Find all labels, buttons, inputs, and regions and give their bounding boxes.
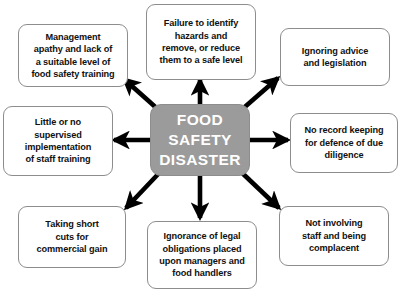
cause-node-bottom-right-label: Not involving staff and being complacent [302,217,366,254]
cause-node-bottom-left[interactable]: Taking short cuts for commercial gain [18,206,126,268]
arrow-down-left [126,170,162,208]
diagram-canvas: Management apathy and lack of a suitable… [0,0,400,300]
cause-node-top-left[interactable]: Management apathy and lack of a suitable… [18,24,128,87]
center-node-label: FOOD SAFETY DISASTER [159,110,241,170]
cause-node-bottom-right[interactable]: Not involving staff and being complacent [279,206,389,266]
cause-node-bottom-center[interactable]: Ignorance of legal obligations placed up… [147,221,257,289]
arrow-down-right [239,170,279,208]
cause-node-bottom-left-label: Taking short cuts for commercial gain [36,218,107,255]
cause-node-top-center-label: Failure to identify hazards and remove, … [160,17,243,67]
cause-node-top-right[interactable]: Ignoring advice and legislation [280,28,390,86]
cause-node-mid-left-label: Little or no supervised implementation o… [25,116,92,166]
cause-node-top-center[interactable]: Failure to identify hazards and remove, … [146,4,256,80]
cause-node-mid-right-label: No record keeping for defence of due dil… [305,124,384,161]
cause-node-mid-right[interactable]: No record keeping for defence of due dil… [290,113,398,173]
cause-node-bottom-center-label: Ignorance of legal obligations placed up… [159,230,245,280]
cause-node-top-right-label: Ignoring advice and legislation [302,45,368,70]
center-node-food-safety-disaster[interactable]: FOOD SAFETY DISASTER [150,104,250,176]
cause-node-mid-left[interactable]: Little or no supervised implementation o… [3,106,113,176]
cause-node-top-left-label: Management apathy and lack of a suitable… [31,31,114,81]
